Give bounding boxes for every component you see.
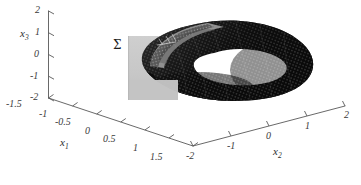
- axis-label-x1: x1: [60, 137, 69, 151]
- poincare-section-plane-edge: [128, 36, 129, 100]
- axis-label-x2-sub: 2: [278, 151, 282, 160]
- x2-ticklabel-0: 0: [266, 131, 271, 141]
- poincare-section-plane-front: [128, 80, 178, 100]
- x1-ticklabel-0p5: 0.5: [103, 134, 116, 144]
- axis-label-x3: x3: [20, 28, 29, 42]
- figure-canvas: Σ 2 1 0 -1 -2 -1.5 -1 -0.5 0 0.5 1 1.5 -…: [0, 0, 361, 185]
- x1-ticklabel-1p5: 1.5: [150, 152, 163, 162]
- x2-ticklabel-1: 1: [305, 121, 310, 131]
- x2-ticklabel-neg2: -2: [186, 151, 194, 161]
- x3-ticklabel-neg1: -1: [30, 71, 38, 81]
- x3-ticklabel-1: 1: [35, 27, 40, 37]
- x3-ticklabel-neg2: -2: [30, 92, 38, 102]
- x1-ticks: [49, 95, 199, 147]
- axis-label-x1-sub: 1: [65, 142, 69, 151]
- plot-svg: [0, 0, 361, 185]
- x2-ticklabel-neg1: -1: [227, 141, 235, 151]
- sigma-section-label: Σ: [113, 39, 121, 51]
- x1-ticklabel-neg1p5: -1.5: [6, 99, 22, 109]
- x3-ticks: [49, 11, 55, 101]
- x2-ticklabel-2: 2: [344, 110, 349, 120]
- axis-label-x2: x2: [273, 146, 282, 160]
- x3-ticklabel-2: 2: [35, 5, 40, 15]
- x1-ticklabel-neg1: -1: [39, 109, 47, 119]
- axis-label-x3-sub: 3: [25, 33, 29, 42]
- x3-ticklabel-0: 0: [34, 49, 39, 59]
- x1-ticklabel-neg0p5: -0.5: [55, 117, 71, 127]
- x1-ticklabel-1: 1: [133, 143, 138, 153]
- x1-ticklabel-0: 0: [85, 126, 90, 136]
